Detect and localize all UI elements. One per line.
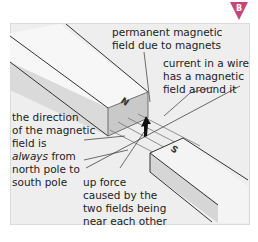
label-force-line3: two fields being [83, 202, 166, 215]
label-permanent-field-line1: permanent magnetic [112, 26, 222, 39]
label-direction-line2: of the magnetic [12, 124, 95, 137]
label-wire-field-line3: field around it [163, 83, 236, 96]
label-direction-line3: field is [12, 137, 46, 150]
label-direction-line1: the direction [12, 111, 79, 124]
label-force-line4: near each other [83, 215, 167, 228]
label-direction-line5: north pole to [12, 163, 80, 176]
label-wire-field-line1: current in a wire [163, 57, 249, 70]
label-wire-field-line2: has a magnetic [163, 70, 244, 83]
label-force-line2: caused by the [83, 189, 157, 202]
label-direction-line4-rest: from [48, 150, 76, 162]
label-force-line1: up force [83, 176, 126, 189]
emphasis-always: always [12, 150, 48, 162]
label-direction-line4: always from [12, 150, 76, 163]
label-permanent-field-line2: field due to magnets [112, 39, 221, 52]
label-direction-line6: south pole [12, 176, 67, 189]
